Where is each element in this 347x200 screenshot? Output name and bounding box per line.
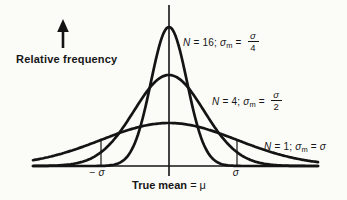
sampling-distribution-figure: Relative frequency N = 16; σm = σ4 N = 4… — [0, 0, 347, 200]
fraction-sigma-over-2: σ2 — [271, 90, 282, 112]
equals-sign: = — [256, 96, 268, 107]
label-text: = 1; — [271, 141, 295, 152]
chart-canvas — [0, 0, 347, 200]
fraction-denominator: 2 — [274, 101, 279, 112]
fraction-numerator: σ — [271, 90, 282, 101]
x-axis-label: True mean = μ — [116, 179, 222, 191]
pos-sigma-tick-label: σ — [228, 167, 244, 178]
up-arrow-icon — [57, 19, 69, 48]
curve-label-n1: N = 1; σm = σ — [264, 139, 326, 153]
sigma-value: σ — [320, 141, 326, 152]
subscript-m: m — [226, 41, 232, 50]
mu-value: = μ — [187, 179, 206, 191]
n-symbol: N — [264, 141, 271, 152]
curve-label-n4: N = 4; σm = σ2 — [212, 89, 282, 113]
true-mean-text: True mean — [132, 179, 187, 191]
neg-sigma-tick-label: − σ — [82, 167, 112, 178]
subscript-m: m — [301, 145, 307, 154]
label-text: = 16; — [190, 37, 219, 48]
fraction-sigma-over-4: σ4 — [248, 31, 259, 53]
n-symbol: N — [212, 96, 219, 107]
curve-label-n16: N = 16; σm = σ4 — [183, 30, 259, 54]
label-text: = 4; — [219, 96, 243, 107]
fraction-numerator: σ — [248, 31, 259, 42]
equals-sign: = — [233, 37, 245, 48]
n-symbol: N — [183, 37, 190, 48]
subscript-m: m — [249, 100, 255, 109]
fraction-denominator: 4 — [250, 42, 255, 53]
equals-sign: = — [308, 141, 320, 152]
y-axis-label: Relative frequency — [16, 53, 117, 65]
